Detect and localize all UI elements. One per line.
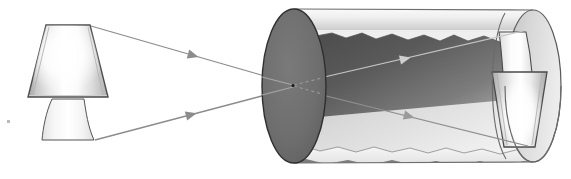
pinhole-camera-figure: Pinhole camera (camera obscura) ray diag… <box>0 0 571 179</box>
lamp-base-shape <box>42 99 94 140</box>
lamp <box>28 25 108 140</box>
lamp-shade <box>28 25 108 97</box>
inverted-lamp-base <box>499 32 532 73</box>
ray-upper-incoming-arrowhead <box>187 50 200 62</box>
lamp-shade-glow <box>28 25 108 97</box>
pinhole-camera-diagram <box>0 0 571 179</box>
scan-speck <box>7 120 10 123</box>
ray-lower-incoming-arrowhead <box>185 109 198 121</box>
pinhole <box>291 84 294 87</box>
box-front-face <box>262 9 326 163</box>
lamp-base <box>42 99 94 140</box>
